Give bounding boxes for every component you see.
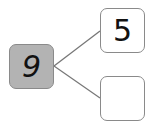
part-box-bottom[interactable] — [100, 76, 145, 121]
connector-bottom — [54, 66, 100, 98]
part-box-top: 5 — [100, 8, 145, 53]
part-value-top: 5 — [113, 13, 132, 48]
connector-top — [54, 31, 100, 66]
whole-value: 9 — [22, 49, 41, 84]
whole-box: 9 — [9, 44, 54, 89]
